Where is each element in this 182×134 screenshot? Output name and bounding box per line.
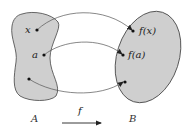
- function-mapping-diagram: x a f(x) f(a) A B f: [0, 0, 182, 134]
- label-fx: f(x): [138, 25, 156, 36]
- point-fa: [121, 53, 124, 56]
- label-x: x: [25, 24, 31, 35]
- set-b-label: B: [128, 113, 136, 124]
- point-a: [42, 53, 45, 56]
- function-label-f: f: [77, 105, 84, 116]
- point-fx: [131, 29, 134, 32]
- label-a: a: [32, 49, 38, 60]
- point-x: [35, 28, 38, 31]
- set-a-label: A: [30, 113, 38, 124]
- mapping-arrow-a-to-fa: [44, 42, 122, 55]
- label-fa: f(a): [127, 49, 146, 60]
- point-a-third: [27, 77, 30, 80]
- point-b-third: [123, 80, 126, 83]
